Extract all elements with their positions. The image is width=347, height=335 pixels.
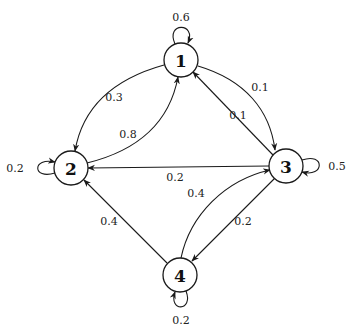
edge-label-2-1: 0.8 xyxy=(119,128,137,141)
edge-2-to-1 xyxy=(87,77,178,163)
node-4: 4 xyxy=(163,258,197,292)
edge-4-to-4 xyxy=(174,291,188,307)
edge-label-2-2: 0.2 xyxy=(6,162,24,175)
edge-label-1-2: 0.3 xyxy=(105,91,123,104)
node-4-label: 4 xyxy=(174,266,186,286)
edge-4-to-2 xyxy=(84,180,167,263)
edge-label-3-4: 0.2 xyxy=(234,215,252,228)
edge-label-3-1: 0.1 xyxy=(229,109,247,122)
edge-label-4-3: 0.4 xyxy=(187,187,205,200)
edge-3-to-2 xyxy=(88,166,269,168)
node-2-label: 2 xyxy=(65,159,77,179)
edge-4-to-3 xyxy=(181,170,270,258)
markov-chain-diagram: 1 2 3 4 0.6 0.3 0.8 0.1 0.1 0.2 0.2 0.5 … xyxy=(0,0,347,335)
edge-label-4-2: 0.4 xyxy=(100,215,118,228)
node-3-label: 3 xyxy=(280,157,292,177)
edge-label-1-3: 0.1 xyxy=(251,81,269,94)
edge-label-4-4: 0.2 xyxy=(172,314,190,327)
edge-1-to-1 xyxy=(173,27,190,44)
node-2: 2 xyxy=(54,151,88,185)
node-1: 1 xyxy=(164,43,198,77)
edge-label-3-2: 0.2 xyxy=(166,171,184,184)
edge-label-3-3: 0.5 xyxy=(328,160,346,173)
edge-label-1-1: 0.6 xyxy=(172,11,190,24)
node-3: 3 xyxy=(269,149,303,183)
edge-2-to-2 xyxy=(38,161,55,174)
node-1-label: 1 xyxy=(175,51,187,71)
edge-3-to-3 xyxy=(302,158,319,172)
